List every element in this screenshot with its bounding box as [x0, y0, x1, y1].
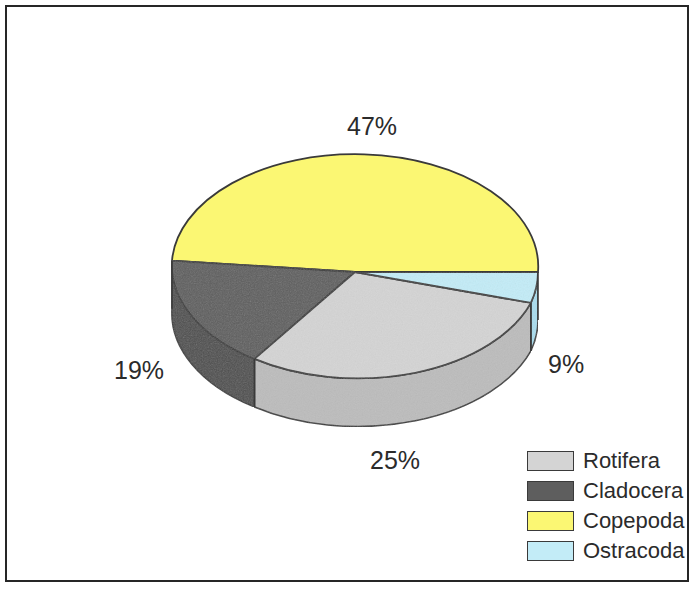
- plot-area: 47% 19% 25% 9% Rotifera Cladocera Copepo…: [0, 0, 696, 589]
- chart-page: 47% 19% 25% 9% Rotifera Cladocera Copepo…: [0, 0, 696, 589]
- legend-swatch-rotifera: [527, 451, 574, 471]
- pie-top-face: [172, 154, 538, 378]
- legend-label-copepoda: Copepoda: [583, 510, 685, 532]
- data-label-rotifera: 25%: [370, 446, 420, 475]
- legend-item-ostracoda[interactable]: Ostracoda: [527, 537, 693, 565]
- legend-item-copepoda[interactable]: Copepoda: [527, 507, 693, 535]
- slice-copepoda[interactable]: [172, 154, 538, 272]
- legend-item-cladocera[interactable]: Cladocera: [527, 477, 693, 505]
- legend-label-ostracoda: Ostracoda: [583, 540, 685, 562]
- legend-swatch-copepoda: [527, 511, 574, 531]
- legend-swatch-ostracoda: [527, 541, 574, 561]
- legend-swatch-cladocera: [527, 481, 574, 501]
- data-label-cladocera: 19%: [114, 356, 164, 385]
- data-label-ostracoda: 9%: [548, 350, 584, 379]
- legend-item-rotifera[interactable]: Rotifera: [527, 447, 693, 475]
- chart-legend: Rotifera Cladocera Copepoda Ostracoda: [527, 447, 693, 567]
- legend-label-rotifera: Rotifera: [583, 450, 660, 472]
- data-label-copepoda: 47%: [347, 112, 397, 141]
- legend-label-cladocera: Cladocera: [583, 480, 683, 502]
